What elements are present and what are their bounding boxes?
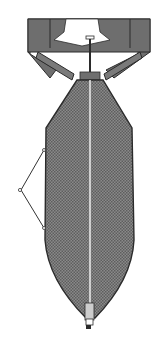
- suspension-strut: [18, 149, 45, 230]
- bomb-body: [45, 80, 134, 318]
- bomb-diagram: [0, 0, 163, 346]
- nose-fuze: [85, 303, 94, 329]
- diagram-canvas: aerial bomb cross-section: [0, 0, 163, 346]
